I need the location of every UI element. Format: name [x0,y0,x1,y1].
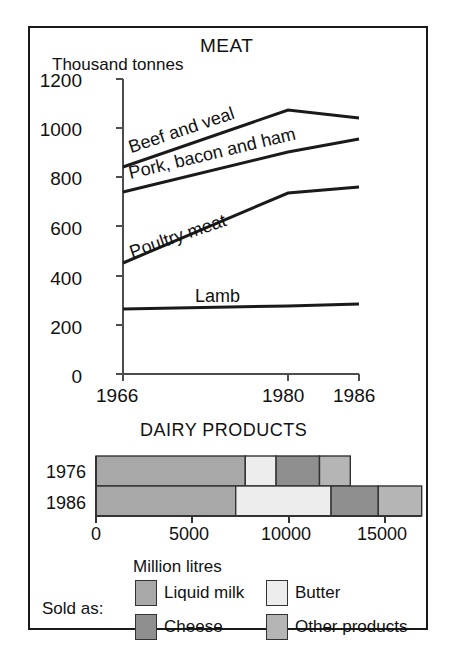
dairy-xtick-5000: 5000 [169,525,209,543]
bar-1976-cheese [276,456,319,486]
bar-1986-other-products [378,486,421,516]
legend-item-liquid-milk[interactable]: Liquid milk [135,580,244,606]
legend-label-cheese: Cheese [164,617,223,637]
series-line-lamb [123,304,359,309]
dairy-x-axis-unit-label: Million litres [133,558,222,575]
bar-1976-butter [245,456,276,486]
legend-label-liquid-milk: Liquid milk [164,583,244,603]
dairy-xtick-10000: 10000 [261,525,311,543]
dairy-xtick-15000: 15000 [357,525,407,543]
meat-line-plot [30,28,430,418]
bar-1986-cheese [331,486,378,516]
dairy-legend: Million litres Sold as: Liquid milk Butt… [30,558,430,638]
series-label-lamb: Lamb [195,287,240,305]
figure-panel: MEAT Thousand tonnes 1200 1000 800 600 4… [28,26,428,630]
legend-title: Sold as: [42,600,103,617]
bar-1976-liquid-milk [96,456,245,486]
dairy-xtick-0: 0 [91,525,101,543]
legend-item-other-products[interactable]: Other products [266,614,407,640]
legend-swatch-liquid-milk [135,580,157,606]
bar-1976-other-products [320,456,351,486]
legend-swatch-cheese [135,614,157,640]
legend-item-cheese[interactable]: Cheese [135,614,223,640]
bar-1986-butter [236,486,331,516]
legend-item-butter[interactable]: Butter [266,580,340,606]
legend-swatch-other-products [266,614,288,640]
legend-swatch-butter [266,580,288,606]
legend-label-other-products: Other products [295,617,407,637]
legend-label-butter: Butter [295,583,340,603]
dairy-chart-title: DAIRY PRODUCTS [140,421,307,439]
bar-1986-liquid-milk [96,486,236,516]
